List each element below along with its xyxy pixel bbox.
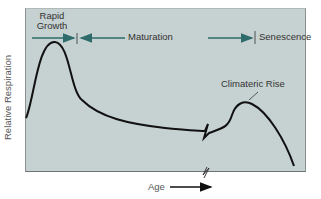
annotation-climateric-rise: Climateric Rise <box>221 79 285 89</box>
y-axis-label: Relative Respiration <box>2 55 13 140</box>
phase-label-rapid-growth: Rapid Growth <box>35 11 69 32</box>
growth-text: Growth <box>35 21 69 31</box>
phase-label-senescence: Senescence <box>259 32 311 42</box>
axis-break-icon <box>203 167 209 178</box>
x-axis-label: Age <box>148 182 165 192</box>
respiration-curve <box>26 42 294 166</box>
phase-label-maturation: Maturation <box>128 32 173 42</box>
